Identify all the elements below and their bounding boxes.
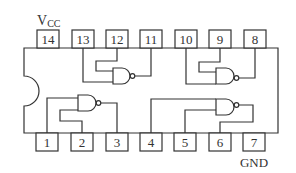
nand-gate-3 [47, 95, 117, 133]
pin-13-label: 13 [77, 32, 90, 47]
pin-12-label: 12 [111, 32, 124, 47]
gnd-label: GND [240, 155, 268, 170]
nand-gate-1 [83, 48, 151, 84]
nand-gate-4 [151, 99, 253, 133]
pin-11-label: 11 [145, 32, 158, 47]
pin-2-label: 2 [79, 135, 86, 150]
pin-5-label: 5 [182, 135, 189, 150]
pin-9-label: 9 [217, 32, 224, 47]
pin-3-label: 3 [114, 135, 121, 150]
ic-pinout-diagram: 14 13 12 11 10 9 8 1 2 3 4 5 6 7 VCC GND [0, 0, 296, 173]
pin-10-label: 10 [180, 32, 193, 47]
vcc-label: VCC [37, 13, 61, 29]
pin-4-label: 4 [148, 135, 155, 150]
pin-7-label: 7 [251, 135, 258, 150]
pin-14-label: 14 [42, 32, 56, 47]
pin-1-label: 1 [44, 135, 51, 150]
nand-gate-2 [186, 48, 255, 84]
pin-8-label: 8 [252, 32, 259, 47]
pin-6-label: 6 [217, 135, 224, 150]
